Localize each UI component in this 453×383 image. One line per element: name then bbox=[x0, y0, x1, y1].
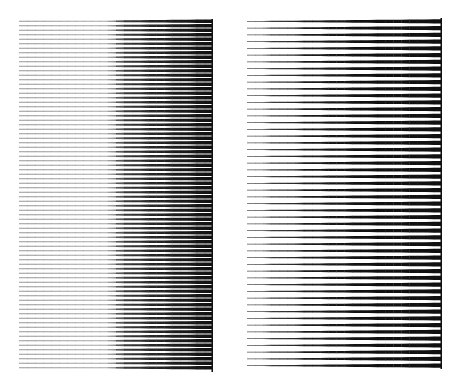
grating-line bbox=[19, 100, 213, 104]
grating-line bbox=[247, 215, 442, 219]
grating-line bbox=[19, 226, 213, 230]
grating-line bbox=[19, 159, 213, 163]
grating-line bbox=[19, 285, 213, 289]
grating-line bbox=[19, 361, 213, 365]
grating-line bbox=[19, 186, 213, 190]
grating-line bbox=[247, 323, 442, 327]
grating-line bbox=[19, 73, 213, 77]
left-grating-panel bbox=[19, 19, 213, 372]
grating-line bbox=[247, 235, 442, 239]
grating-line bbox=[19, 177, 213, 181]
panel-right-edge-rule bbox=[212, 19, 214, 372]
grating-line bbox=[247, 121, 442, 125]
grating-line bbox=[247, 249, 442, 253]
grating-line bbox=[19, 352, 213, 356]
grating-line bbox=[19, 348, 213, 352]
grating-line bbox=[19, 96, 213, 100]
grating-line bbox=[19, 145, 213, 149]
grating-line bbox=[19, 105, 213, 109]
grating-line bbox=[19, 208, 213, 212]
grating-line bbox=[19, 163, 213, 167]
grating-line bbox=[247, 208, 442, 212]
grating-line bbox=[19, 69, 213, 73]
grating-line bbox=[247, 229, 442, 233]
grating-line bbox=[19, 127, 213, 131]
grating-line bbox=[19, 325, 213, 329]
grating-line bbox=[19, 55, 213, 59]
grating-line bbox=[19, 289, 213, 293]
grating-line bbox=[247, 296, 442, 300]
grating-line bbox=[19, 60, 213, 64]
grating-line bbox=[247, 283, 442, 287]
grating-line bbox=[247, 127, 442, 131]
grating-line bbox=[19, 235, 213, 239]
grating-line bbox=[19, 168, 213, 172]
grating-line bbox=[19, 258, 213, 262]
grating-line bbox=[19, 280, 213, 284]
grating-line bbox=[19, 136, 213, 140]
grating-line bbox=[19, 204, 213, 208]
grating-line bbox=[247, 134, 442, 138]
grating-line bbox=[19, 357, 213, 361]
grating-line bbox=[19, 33, 213, 37]
grating-line bbox=[19, 222, 213, 226]
grating-line bbox=[247, 337, 442, 341]
grating-line bbox=[19, 217, 213, 221]
grating-line bbox=[19, 87, 213, 91]
grating-line bbox=[247, 19, 442, 23]
grating-line bbox=[19, 24, 213, 28]
grating-line bbox=[247, 148, 442, 152]
grating-line bbox=[247, 26, 442, 30]
grating-line bbox=[19, 132, 213, 136]
grating-line bbox=[247, 100, 442, 104]
right-grating-panel bbox=[247, 18, 442, 369]
grating-line bbox=[19, 141, 213, 145]
grating-line bbox=[19, 42, 213, 46]
grating-line bbox=[247, 181, 442, 185]
grating-line bbox=[19, 118, 213, 122]
grating-line bbox=[247, 33, 442, 37]
grating-line bbox=[19, 343, 213, 347]
grating-line bbox=[19, 276, 213, 280]
grating-line bbox=[19, 240, 213, 244]
grating-line bbox=[19, 46, 213, 50]
grating-line bbox=[19, 294, 213, 298]
grating-line bbox=[19, 172, 213, 176]
grating-line bbox=[247, 303, 442, 307]
grating-line bbox=[19, 123, 213, 127]
grating-line bbox=[19, 195, 213, 199]
grating-line bbox=[19, 312, 213, 316]
grating-line bbox=[19, 64, 213, 68]
grating-line bbox=[19, 114, 213, 118]
grating-line bbox=[247, 67, 442, 71]
grating-line bbox=[247, 175, 442, 179]
grating-line bbox=[19, 150, 213, 154]
grating-line bbox=[247, 350, 442, 354]
grating-line bbox=[19, 339, 213, 343]
grating-line bbox=[247, 276, 442, 280]
grating-line bbox=[247, 161, 442, 165]
grating-line bbox=[19, 28, 213, 32]
grating-line bbox=[19, 262, 213, 266]
grating-line bbox=[19, 244, 213, 248]
grating-line bbox=[19, 82, 213, 86]
grating-line bbox=[247, 357, 442, 361]
grating-line bbox=[19, 271, 213, 275]
grating-line bbox=[247, 330, 442, 334]
grating-line bbox=[247, 154, 442, 158]
grating-line bbox=[247, 316, 442, 320]
grating-line bbox=[19, 37, 213, 41]
grating-line bbox=[19, 78, 213, 82]
grating-line bbox=[19, 253, 213, 257]
grating-line bbox=[19, 109, 213, 113]
grating-line bbox=[247, 114, 442, 118]
grating-line bbox=[19, 267, 213, 271]
grating-line bbox=[19, 190, 213, 194]
grating-line bbox=[247, 40, 442, 44]
line-grating-figure bbox=[0, 0, 453, 383]
grating-line bbox=[19, 91, 213, 95]
grating-line bbox=[19, 316, 213, 320]
grating-line bbox=[247, 94, 442, 98]
grating-line bbox=[247, 107, 442, 111]
grating-line bbox=[247, 269, 442, 273]
